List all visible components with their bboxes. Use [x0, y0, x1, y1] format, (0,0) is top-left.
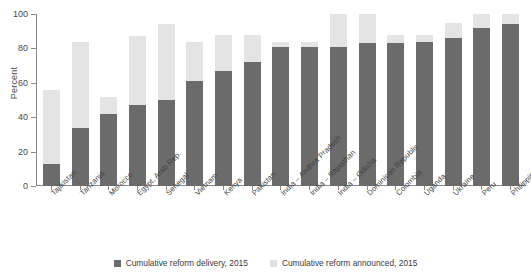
y-tick-mark	[31, 117, 36, 118]
bar-column	[416, 14, 433, 186]
bar-segment-announced	[473, 14, 490, 28]
bar-segment-announced	[387, 35, 404, 44]
bar-segment-delivery	[215, 71, 232, 186]
bar-segment-announced	[502, 14, 519, 24]
bar-column	[502, 14, 519, 186]
bar-segment-announced	[416, 35, 433, 42]
bar-segment-delivery	[445, 38, 462, 186]
bar-segment-announced	[445, 23, 462, 38]
bar-segment-announced	[359, 14, 376, 43]
bar-segment-delivery	[272, 47, 289, 186]
legend-label: Cumulative reform announced, 2015	[282, 258, 417, 268]
y-tick-mark	[31, 14, 36, 15]
bar-column	[186, 14, 203, 186]
y-tick-label: 100	[13, 9, 28, 19]
y-tick-label: 80	[18, 43, 28, 53]
bar-segment-delivery	[502, 24, 519, 186]
bar-segment-announced	[129, 36, 146, 105]
bar-segment-announced	[100, 97, 117, 114]
bar-column	[445, 14, 462, 186]
bar-chart: Percent 020406080100 TajikistanTanzaniaM…	[0, 0, 531, 272]
y-tick-mark	[31, 152, 36, 153]
bar-column	[100, 14, 117, 186]
x-axis-category-labels: TajikistanTanzaniaMoroccoEgypt, Arab Rep…	[37, 191, 526, 251]
bar-column	[43, 14, 60, 186]
dark-swatch-icon	[114, 260, 121, 267]
bar-segment-announced	[158, 24, 175, 100]
bar-segment-announced	[186, 42, 203, 82]
bar-column	[129, 14, 146, 186]
y-tick-label: 40	[18, 112, 28, 122]
chart-legend: Cumulative reform delivery, 2015Cumulati…	[0, 258, 531, 268]
legend-item[interactable]: Cumulative reform announced, 2015	[270, 258, 417, 268]
plot-area: 020406080100	[36, 14, 525, 186]
y-tick-mark	[31, 83, 36, 84]
bar-segment-announced	[330, 14, 347, 47]
bar-column	[215, 14, 232, 186]
bar-segment-announced	[215, 35, 232, 71]
bar-column	[473, 14, 490, 186]
y-tick-label: 20	[18, 147, 28, 157]
bar-series-group	[37, 14, 525, 186]
bar-segment-announced	[72, 42, 89, 128]
bar-column	[272, 14, 289, 186]
bar-column	[244, 14, 261, 186]
legend-item[interactable]: Cumulative reform delivery, 2015	[114, 258, 248, 268]
bar-column	[72, 14, 89, 186]
bar-segment-delivery	[186, 81, 203, 186]
y-tick-label: 0	[23, 181, 28, 191]
light-swatch-icon	[270, 260, 277, 267]
bar-segment-delivery	[473, 28, 490, 186]
bar-segment-announced	[244, 35, 261, 63]
y-tick-mark	[31, 186, 36, 187]
bar-segment-delivery	[416, 42, 433, 186]
legend-label: Cumulative reform delivery, 2015	[126, 258, 248, 268]
y-tick-label: 60	[18, 78, 28, 88]
bar-segment-announced	[43, 90, 60, 164]
bar-segment-delivery	[244, 62, 261, 186]
y-tick-mark	[31, 48, 36, 49]
